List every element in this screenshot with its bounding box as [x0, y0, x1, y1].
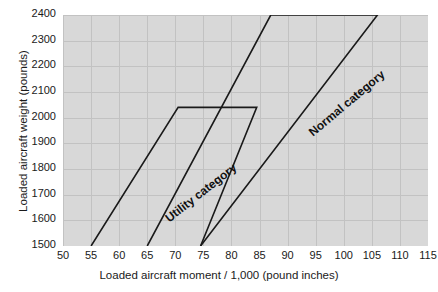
y-axis-title: Loaded aircraft weight (pounds): [17, 16, 29, 246]
x-tick-label: 95: [301, 249, 331, 261]
x-tick-label: 75: [188, 249, 218, 261]
plot-inner: [63, 15, 428, 246]
x-tick-label: 110: [385, 249, 415, 261]
x-tick-label: 65: [132, 249, 162, 261]
x-tick-label: 55: [76, 249, 106, 261]
x-tick-label: 50: [48, 249, 78, 261]
x-axis-title: Loaded aircraft moment / 1,000 (pound in…: [0, 269, 438, 281]
envelope-curves: [63, 15, 428, 246]
x-tick-label: 90: [273, 249, 303, 261]
x-tick-label: 105: [357, 249, 387, 261]
x-tick-label: 100: [329, 249, 359, 261]
x-tick-label: 115: [413, 249, 438, 261]
chart-container: Utility category Normal category 5055606…: [0, 0, 438, 292]
x-tick-label: 80: [216, 249, 246, 261]
plot-area: Utility category Normal category: [63, 15, 428, 246]
x-tick-label: 85: [245, 249, 275, 261]
x-tick-label: 70: [160, 249, 190, 261]
x-tick-label: 60: [104, 249, 134, 261]
